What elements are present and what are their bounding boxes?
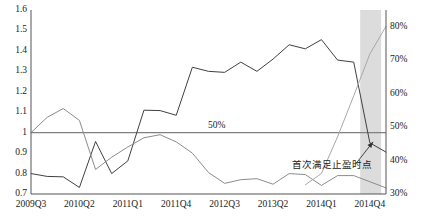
x-axis-tick: 2009Q3 (9, 199, 53, 209)
annotation-text: 首次满足止盈时点 (292, 157, 372, 171)
y-axis-left-tick: 1.4 (1, 45, 27, 55)
reference-line-label: 50% (208, 120, 225, 130)
y-axis-right-tick: 70% (390, 54, 424, 64)
x-axis-tick: 2011Q1 (106, 199, 150, 209)
y-axis-right-tick: 80% (390, 21, 424, 31)
x-axis-tick: 2012Q3 (203, 199, 247, 209)
chart-container: 1.61.51.41.31.21.110.90.80.780%70%60%50%… (0, 0, 424, 224)
y-axis-right-tick: 50% (390, 121, 424, 131)
y-axis-left-tick: 0.7 (1, 188, 27, 198)
chart-plot-area (0, 0, 424, 224)
x-axis-tick: 2014Q1 (299, 199, 343, 209)
y-axis-right-tick: 30% (390, 188, 424, 198)
y-axis-left-tick: 0.9 (1, 147, 27, 157)
y-axis-left-tick: 1 (1, 127, 27, 137)
y-axis-left-tick: 1.2 (1, 86, 27, 96)
y-axis-left-tick: 1.5 (1, 24, 27, 34)
y-axis-left-tick: 1.1 (1, 106, 27, 116)
x-axis-tick: 2011Q4 (154, 199, 198, 209)
x-axis-tick: 2010Q2 (57, 199, 101, 209)
y-axis-left-tick: 1.6 (1, 4, 27, 14)
y-axis-left-tick: 0.8 (1, 168, 27, 178)
x-axis-tick: 2013Q2 (251, 199, 295, 209)
x-axis-tick: 2014Q4 (348, 199, 392, 209)
y-axis-left-tick: 1.3 (1, 65, 27, 75)
y-axis-right-tick: 60% (390, 88, 424, 98)
y-axis-right-tick: 40% (390, 155, 424, 165)
